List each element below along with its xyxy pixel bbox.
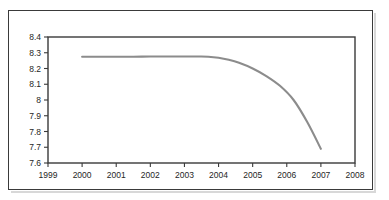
x-tick-label: 2008 (346, 170, 365, 180)
x-tick-label: 2002 (141, 170, 160, 180)
x-tick-label: 2003 (175, 170, 194, 180)
y-tick-label: 7.9 (29, 111, 41, 121)
x-tick-label: 2007 (311, 170, 330, 180)
y-tick-label: 8.3 (29, 48, 41, 58)
y-tick-label: 8.2 (29, 64, 41, 74)
y-axis: 8.48.38.28.187.97.87.77.6 (29, 32, 48, 168)
x-tick-label: 1999 (39, 170, 58, 180)
x-tick-label: 2000 (73, 170, 92, 180)
x-axis: 1999200020012002200320042005200620072008 (39, 163, 365, 180)
line-chart-canvas: 8.48.38.28.187.97.87.77.6 19992000200120… (0, 0, 389, 200)
y-tick-label: 7.8 (29, 127, 41, 137)
x-tick-label: 2004 (209, 170, 228, 180)
y-tick-label: 7.6 (29, 158, 41, 168)
x-tick-label: 2006 (277, 170, 296, 180)
y-tick-label: 7.7 (29, 142, 41, 152)
y-tick-label: 8.4 (29, 32, 41, 42)
y-tick-label: 8.1 (29, 79, 41, 89)
data-series-group (82, 57, 321, 149)
data-line-1 (82, 57, 321, 149)
x-tick-label: 2005 (243, 170, 262, 180)
x-tick-label: 2001 (107, 170, 126, 180)
y-tick-label: 8 (36, 95, 41, 105)
chart-figure: 8.48.38.28.187.97.87.77.6 19992000200120… (0, 0, 389, 200)
